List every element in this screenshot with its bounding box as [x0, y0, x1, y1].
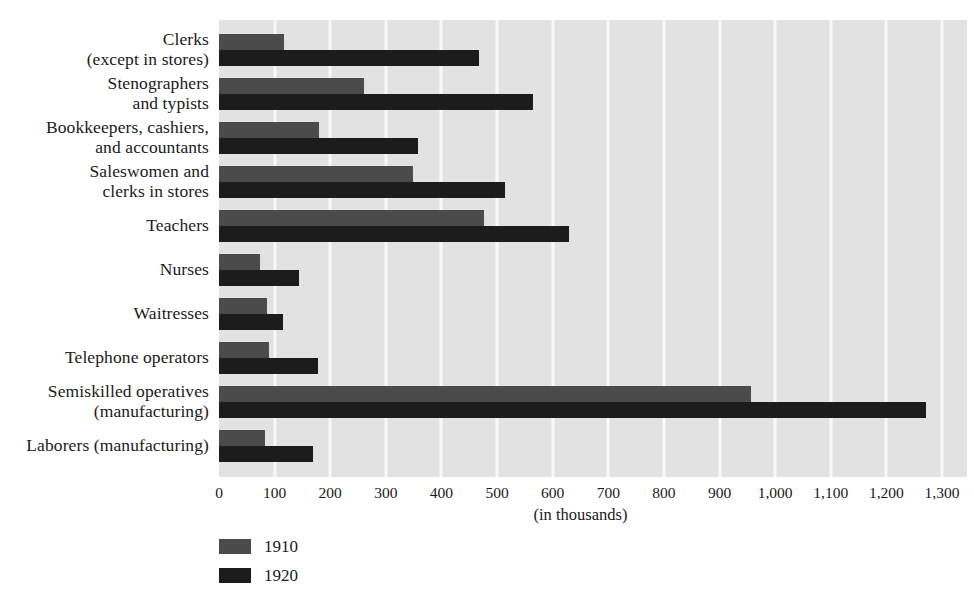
category-label: Clerks(except in stores) [0, 28, 209, 72]
x-tick-label: 600 [541, 484, 564, 502]
chart-body: Clerks(except in stores)Stenographersand… [0, 0, 974, 477]
legend-label-1920: 1920 [264, 566, 298, 586]
legend-label-1910: 1910 [264, 537, 298, 557]
bar-1920 [219, 446, 313, 462]
bar-1920 [219, 138, 418, 154]
bar-1920 [219, 50, 479, 66]
bar-group [219, 248, 967, 292]
bar-group [219, 160, 967, 204]
x-tick-label: 700 [597, 484, 620, 502]
category-label: Semiskilled operatives(manufacturing) [0, 380, 209, 424]
legend-item-1910: 1910 [219, 532, 974, 561]
legend: 19101920 [219, 532, 974, 590]
bar-1910 [219, 34, 284, 50]
bar-1910 [219, 78, 364, 94]
occupations-grouped-bar-chart: Clerks(except in stores)Stenographersand… [0, 0, 974, 601]
x-tick-label: 1,000 [758, 484, 793, 502]
bar-group [219, 72, 967, 116]
bar-1910 [219, 166, 413, 182]
category-label-line: Stenographers [0, 74, 209, 94]
category-label-line: (manufacturing) [0, 402, 209, 422]
bar-group [219, 116, 967, 160]
category-label-line: and typists [0, 94, 209, 114]
category-label-line: Clerks [0, 30, 209, 50]
bar-group [219, 424, 967, 468]
x-tick-label: 100 [263, 484, 286, 502]
bar-1910 [219, 210, 484, 226]
x-axis-label: (in thousands) [219, 505, 942, 525]
category-label-line: Laborers (manufacturing) [0, 436, 209, 456]
category-label-line: clerks in stores [0, 182, 209, 202]
bar-group [219, 28, 967, 72]
x-tick-label: 800 [652, 484, 675, 502]
x-tick-label: 200 [319, 484, 342, 502]
x-tick-label: 400 [430, 484, 453, 502]
legend-swatch-1910 [219, 539, 251, 554]
category-label-line: Semiskilled operatives [0, 382, 209, 402]
category-labels: Clerks(except in stores)Stenographersand… [0, 20, 219, 477]
bar-group [219, 336, 967, 380]
bar-1920 [219, 270, 299, 286]
category-label-line: Teachers [0, 216, 209, 236]
bar-group [219, 292, 967, 336]
x-tick-label: 1,100 [813, 484, 848, 502]
category-label: Waitresses [0, 292, 209, 336]
bar-1910 [219, 254, 260, 270]
x-tick-label: 1,200 [869, 484, 904, 502]
category-label: Stenographersand typists [0, 72, 209, 116]
category-label-line: Saleswomen and [0, 162, 209, 182]
category-label-line: (except in stores) [0, 50, 209, 70]
category-label: Laborers (manufacturing) [0, 424, 209, 468]
category-label-line: Nurses [0, 260, 209, 280]
bar-1920 [219, 358, 318, 374]
x-axis: 01002003004005006007008009001,0001,1001,… [219, 477, 967, 504]
bar-1920 [219, 402, 926, 418]
category-label-line: Bookkeepers, cashiers, [0, 118, 209, 138]
bar-rows [219, 20, 967, 477]
category-label: Teachers [0, 204, 209, 248]
bar-1920 [219, 226, 569, 242]
bar-1920 [219, 94, 533, 110]
plot-area [219, 20, 967, 477]
bar-1920 [219, 182, 505, 198]
legend-swatch-1920 [219, 568, 251, 583]
bar-group [219, 204, 967, 248]
x-tick-label: 900 [708, 484, 731, 502]
x-tick-label: 1,300 [925, 484, 960, 502]
bar-1920 [219, 314, 283, 330]
x-tick-label: 300 [374, 484, 397, 502]
category-label-line: and accountants [0, 138, 209, 158]
category-label: Telephone operators [0, 336, 209, 380]
bar-1910 [219, 342, 269, 358]
bar-1910 [219, 122, 319, 138]
bar-1910 [219, 430, 265, 446]
bar-1910 [219, 298, 267, 314]
x-tick-label: 0 [215, 484, 223, 502]
x-tick-label: 500 [485, 484, 508, 502]
bar-1910 [219, 386, 751, 402]
category-label-line: Waitresses [0, 304, 209, 324]
bar-group [219, 380, 967, 424]
category-label: Bookkeepers, cashiers,and accountants [0, 116, 209, 160]
legend-item-1920: 1920 [219, 561, 974, 590]
category-label: Saleswomen andclerks in stores [0, 160, 209, 204]
category-label-line: Telephone operators [0, 348, 209, 368]
category-label: Nurses [0, 248, 209, 292]
